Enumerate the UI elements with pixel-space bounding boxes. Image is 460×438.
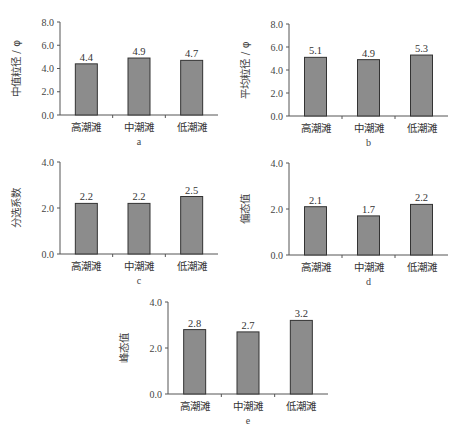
y-axis-label: 分选系数 bbox=[10, 187, 22, 228]
y-tick-label: 2.0 bbox=[42, 203, 55, 214]
y-axis-label: 峰态值 bbox=[118, 332, 130, 363]
bar-value-label: 2.2 bbox=[415, 192, 428, 203]
bar bbox=[75, 203, 97, 254]
chart-d: 0.02.04.0偏态值2.1高潮滩1.7中潮滩2.2低潮滩d bbox=[230, 150, 460, 290]
bar bbox=[237, 332, 259, 394]
y-tick-label: 4.0 bbox=[42, 63, 55, 74]
bar-value-label: 2.7 bbox=[241, 320, 254, 331]
bar-value-label: 4.7 bbox=[185, 48, 198, 59]
bar bbox=[75, 64, 97, 115]
y-tick-label: 4.0 bbox=[271, 65, 284, 76]
x-category-label: 高潮滩 bbox=[301, 261, 332, 273]
x-category-label: 中潮滩 bbox=[233, 400, 264, 412]
x-category-label: 高潮滩 bbox=[71, 121, 102, 133]
bar-value-label: 4.9 bbox=[132, 46, 145, 57]
x-category-label: 低潮滩 bbox=[177, 121, 208, 133]
bar bbox=[181, 197, 203, 255]
bar-value-label: 2.8 bbox=[188, 318, 201, 329]
bar bbox=[411, 55, 433, 116]
x-category-label: 低潮滩 bbox=[407, 261, 438, 273]
x-category-label: 中潮滩 bbox=[354, 261, 385, 273]
x-category-label: 高潮滩 bbox=[301, 122, 332, 134]
chart-e-svg: 0.02.04.0峰态值2.8高潮滩2.7中潮滩3.2低潮滩e bbox=[110, 290, 350, 438]
bar-value-label: 1.7 bbox=[362, 204, 375, 215]
bar bbox=[290, 320, 312, 394]
chart-b-svg: 0.02.04.06.08.0平均粒径 / φ5.1高潮滩4.9中潮滩5.3低潮… bbox=[230, 0, 460, 150]
y-axis-label: 平均粒径 / φ bbox=[239, 41, 251, 98]
y-tick-label: 4.0 bbox=[150, 297, 163, 308]
bar-value-label: 4.4 bbox=[80, 52, 94, 63]
chart-a-svg: 0.02.04.06.08.0中值粒径 / φ4.4高潮滩4.9中潮滩4.7低潮… bbox=[0, 0, 230, 150]
y-tick-label: 0.0 bbox=[150, 389, 163, 400]
y-tick-label: 0.0 bbox=[42, 110, 55, 121]
bar bbox=[305, 207, 327, 255]
y-axis-label: 偏态值 bbox=[239, 193, 251, 224]
y-tick-label: 2.0 bbox=[271, 88, 284, 99]
bar-value-label: 2.2 bbox=[132, 191, 145, 202]
panel-sublabel: c bbox=[137, 275, 142, 286]
y-tick-label: 6.0 bbox=[271, 42, 284, 53]
y-tick-label: 0.0 bbox=[42, 249, 55, 260]
y-tick-label: 6.0 bbox=[42, 40, 55, 51]
bar bbox=[411, 204, 433, 255]
bar bbox=[305, 57, 327, 116]
chart-a: 0.02.04.06.08.0中值粒径 / φ4.4高潮滩4.9中潮滩4.7低潮… bbox=[0, 0, 230, 150]
x-category-label: 高潮滩 bbox=[71, 260, 102, 272]
bar bbox=[128, 58, 150, 115]
y-tick-label: 2.0 bbox=[271, 204, 284, 215]
y-tick-label: 8.0 bbox=[271, 19, 284, 30]
chart-c-svg: 0.02.04.0分选系数2.2高潮滩2.2中潮滩2.5低潮滩c bbox=[0, 150, 230, 290]
bar-value-label: 5.1 bbox=[309, 45, 322, 56]
y-tick-label: 4.0 bbox=[42, 157, 55, 168]
x-category-label: 中潮滩 bbox=[124, 121, 155, 133]
y-tick-label: 8.0 bbox=[42, 17, 55, 28]
x-category-label: 中潮滩 bbox=[354, 122, 385, 134]
bar bbox=[181, 60, 203, 115]
bar-value-label: 2.1 bbox=[309, 195, 322, 206]
y-axis-label: 中值粒径 / φ bbox=[10, 40, 22, 97]
bar-value-label: 3.2 bbox=[295, 308, 308, 319]
chart-c: 0.02.04.0分选系数2.2高潮滩2.2中潮滩2.5低潮滩c bbox=[0, 150, 230, 290]
chart-d-svg: 0.02.04.0偏态值2.1高潮滩1.7中潮滩2.2低潮滩d bbox=[230, 150, 460, 290]
bar bbox=[184, 330, 206, 394]
y-tick-label: 2.0 bbox=[150, 343, 163, 354]
panel-sublabel: e bbox=[246, 415, 251, 426]
bar bbox=[128, 203, 150, 254]
x-category-label: 低潮滩 bbox=[177, 260, 208, 272]
x-category-label: 低潮滩 bbox=[407, 122, 438, 134]
y-tick-label: 2.0 bbox=[42, 86, 55, 97]
x-category-label: 低潮滩 bbox=[286, 400, 317, 412]
panel-sublabel: a bbox=[137, 136, 142, 147]
y-tick-label: 0.0 bbox=[271, 250, 284, 261]
bar-value-label: 2.5 bbox=[185, 185, 198, 196]
panel-sublabel: d bbox=[366, 276, 371, 287]
bar bbox=[358, 60, 380, 116]
x-category-label: 中潮滩 bbox=[124, 260, 155, 272]
bar bbox=[358, 216, 380, 255]
bar-value-label: 4.9 bbox=[362, 48, 375, 59]
panel-sublabel: b bbox=[366, 137, 371, 148]
x-category-label: 高潮滩 bbox=[180, 400, 211, 412]
y-tick-label: 0.0 bbox=[271, 111, 284, 122]
chart-b: 0.02.04.06.08.0平均粒径 / φ5.1高潮滩4.9中潮滩5.3低潮… bbox=[230, 0, 460, 150]
bar-value-label: 2.2 bbox=[80, 191, 93, 202]
bar-value-label: 5.3 bbox=[415, 43, 428, 54]
chart-e: 0.02.04.0峰态值2.8高潮滩2.7中潮滩3.2低潮滩e bbox=[110, 290, 350, 438]
y-tick-label: 4.0 bbox=[271, 158, 284, 169]
